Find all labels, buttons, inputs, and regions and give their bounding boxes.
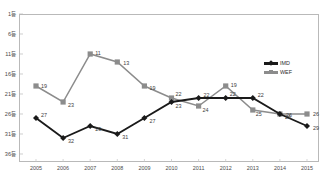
legend-label: IMD [280,60,290,66]
data-point-label: 19 [41,83,47,89]
data-point-marker [196,95,202,101]
data-point-label: 22 [204,92,210,98]
data-point-label: 19 [231,82,237,88]
data-point-marker [304,111,309,116]
data-point-marker [115,59,120,64]
legend-swatch-diamond-icon [264,62,278,65]
x-axis-tick-label: 2006 [57,165,69,171]
data-point-label: 29 [313,125,319,131]
x-axis-tick-label: 2008 [111,165,123,171]
legend-label: WEF [280,69,292,75]
data-point-marker [196,103,201,108]
x-axis-tick-label: 2010 [166,165,178,171]
x-axis-tick-label: 2013 [247,165,259,171]
data-point-label: 22 [230,91,236,97]
data-point-label: 23 [68,102,74,108]
data-point-label: 23 [176,103,182,109]
data-point-label: 26 [313,111,319,117]
data-point-marker [223,95,229,101]
data-point-marker [33,83,38,88]
data-point-label: 13 [123,60,129,66]
data-point-label: 25 [256,111,262,117]
legend-item-imd[interactable]: IMD [264,60,290,66]
data-point-label: 19 [149,85,155,91]
data-point-marker [87,123,93,129]
data-point-label: 26 [286,112,292,118]
data-point-label: 24 [203,107,209,113]
data-point-label: 27 [41,112,47,118]
legend-item-wef[interactable]: WEF [264,69,292,75]
data-point-label: 27 [149,118,155,124]
x-axis-tick-label: 2007 [84,165,96,171]
x-axis-tick-label: 2005 [30,165,42,171]
data-point-marker [223,83,228,88]
data-point-marker [88,51,93,56]
data-point-label: 22 [176,91,182,97]
x-axis-tick-label: 2014 [274,165,286,171]
data-point-label: 11 [95,50,101,56]
x-axis-tick-label: 2011 [193,165,205,171]
data-point-label: 31 [122,134,128,140]
rank-line-chart: 1등6등11등16등21등26등31등36등 27322931272322222… [0,0,330,180]
data-point-marker [142,83,147,88]
data-point-label: 29 [95,126,101,132]
data-point-label: 22 [258,92,264,98]
x-axis-tick-label: 2009 [138,165,150,171]
data-point-marker [61,99,66,104]
x-axis-ticks: 2005200620072008200920102011201220132014… [19,163,319,177]
plot-svg [0,0,330,180]
x-axis-tick-label: 2015 [301,165,313,171]
data-point-marker [304,123,310,129]
data-point-label: 32 [68,138,74,144]
data-point-marker [250,107,255,112]
x-axis-tick-label: 2012 [220,165,232,171]
legend-swatch-square-icon [264,71,278,74]
